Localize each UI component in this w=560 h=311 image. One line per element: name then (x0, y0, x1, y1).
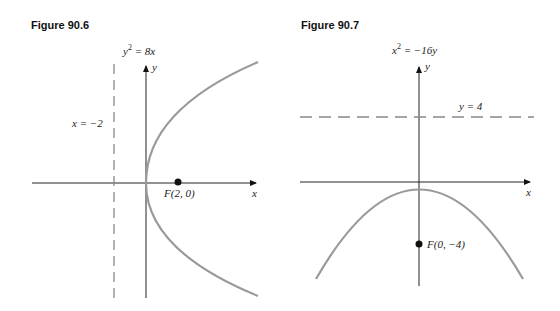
directrix-label: y = 4 (458, 100, 483, 112)
y-axis-label: y (151, 61, 157, 73)
focus-point (175, 179, 182, 186)
equation-label: y2 = 8x (122, 43, 155, 57)
focus-point (416, 241, 423, 248)
directrix-label: x = −2 (71, 117, 103, 129)
focus-label: F(2, 0) (163, 187, 195, 200)
y-axis-label: y (424, 60, 430, 72)
equation-label: x2 = −16y (391, 42, 437, 56)
parabola-curve (146, 62, 258, 296)
x-axis-label: x (251, 187, 257, 199)
focus-label: F(0, −4) (426, 238, 465, 251)
x-axis-label: x (525, 186, 531, 198)
figure-90-7: x2 = −16y y y = 4 F(0, −4) x (300, 42, 534, 286)
diagram-canvas: y2 = 8x y x = −2 F(2, 0) x x2 = −16y y y… (0, 0, 560, 311)
figure-90-6: y2 = 8x y x = −2 F(2, 0) x (32, 43, 258, 300)
